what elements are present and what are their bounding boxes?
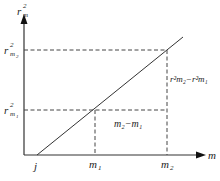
x-axis-label: m bbox=[208, 149, 216, 161]
svg-text:2: 2 bbox=[16, 54, 19, 59]
svg-text:m: m bbox=[161, 158, 169, 170]
svg-text:r: r bbox=[4, 44, 9, 56]
svg-text:2: 2 bbox=[10, 101, 14, 109]
svg-text:2: 2 bbox=[10, 41, 14, 49]
diagram-canvas: r 2 m r 2 m 2 r 2 m 1 j m 1 m 2 m m₂−m₁ … bbox=[0, 0, 220, 181]
svg-text:1: 1 bbox=[98, 164, 102, 172]
delta-m-label: m₂−m₁ bbox=[114, 118, 142, 129]
svg-text:m: m bbox=[10, 110, 15, 118]
svg-text:2: 2 bbox=[23, 2, 27, 10]
svg-text:2: 2 bbox=[170, 164, 174, 172]
x-tick-m1: m 1 bbox=[89, 158, 102, 172]
delta-r-label: r²m₂−r²m₁ bbox=[170, 74, 208, 84]
linear-relation-line bbox=[37, 37, 183, 155]
origin-label-j: j bbox=[32, 160, 37, 172]
svg-text:m: m bbox=[10, 50, 15, 58]
svg-text:m: m bbox=[23, 11, 28, 19]
y-tick-rm1: r 2 m 1 bbox=[4, 101, 19, 119]
x-axis-arrow-icon bbox=[196, 152, 206, 159]
svg-text:1: 1 bbox=[16, 114, 19, 119]
svg-text:m: m bbox=[89, 158, 97, 170]
svg-text:r: r bbox=[17, 5, 22, 17]
y-axis-label: r 2 m bbox=[17, 2, 28, 19]
x-tick-m2: m 2 bbox=[161, 158, 174, 172]
svg-text:r: r bbox=[4, 104, 9, 116]
y-tick-rm2: r 2 m 2 bbox=[4, 41, 19, 59]
